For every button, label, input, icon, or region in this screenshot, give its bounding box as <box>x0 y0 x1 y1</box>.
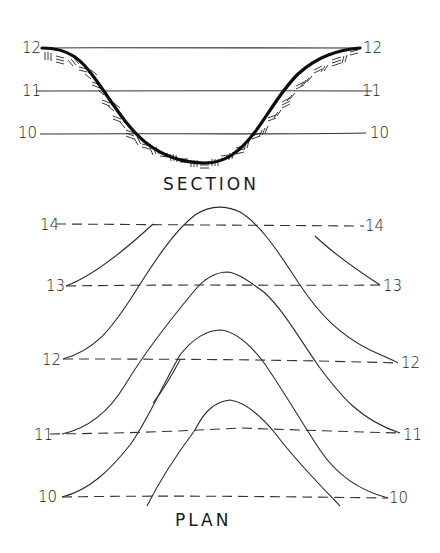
plan-label-left-12: 12 <box>42 351 61 369</box>
section-label-left-12: 12 <box>22 39 41 57</box>
plan-view: 14 14 13 13 12 12 11 11 10 10 PLAN <box>34 207 422 530</box>
section-label-right-12: 12 <box>363 39 382 57</box>
contour-curve-10 <box>62 330 388 498</box>
plan-label-right-14: 14 <box>365 217 384 235</box>
section-view: 12 12 11 11 10 10 SECTION <box>18 39 389 194</box>
plan-label-right-12: 12 <box>401 354 420 372</box>
plan-label-left-11: 11 <box>34 426 53 444</box>
earth-hatching <box>45 50 358 168</box>
contour-curve-11 <box>62 272 400 434</box>
section-elevation-line-12 <box>42 48 360 49</box>
ground-profile-curve <box>42 48 360 163</box>
section-title: SECTION <box>163 174 259 194</box>
contour-curve-13-left <box>66 224 153 286</box>
plan-label-left-14: 14 <box>40 216 59 234</box>
contour-curve-inner-left <box>153 360 180 403</box>
section-label-left-11: 11 <box>22 82 41 100</box>
plan-label-right-11: 11 <box>403 426 422 444</box>
plan-dashed-line-14 <box>56 224 364 226</box>
section-label-left-10: 10 <box>18 124 37 142</box>
plan-dashed-line-10 <box>62 496 388 498</box>
plan-title: PLAN <box>175 510 231 530</box>
contour-diagram: 12 12 11 11 10 10 SECTION 14 14 13 13 <box>0 0 440 553</box>
section-elevation-line-10 <box>40 133 366 134</box>
contour-curve-13-right <box>315 236 380 285</box>
contour-curve-inner <box>147 400 340 506</box>
section-label-right-11: 11 <box>362 82 381 100</box>
plan-dashed-line-11 <box>50 428 400 434</box>
plan-dashed-line-12 <box>63 359 398 363</box>
plan-label-right-10: 10 <box>389 489 408 507</box>
plan-label-left-13: 13 <box>46 277 65 295</box>
plan-label-right-13: 13 <box>383 277 402 295</box>
section-label-right-10: 10 <box>370 124 389 142</box>
plan-dashed-line-13 <box>66 285 380 286</box>
plan-label-left-10: 10 <box>38 488 57 506</box>
section-elevation-line-11 <box>36 91 372 92</box>
